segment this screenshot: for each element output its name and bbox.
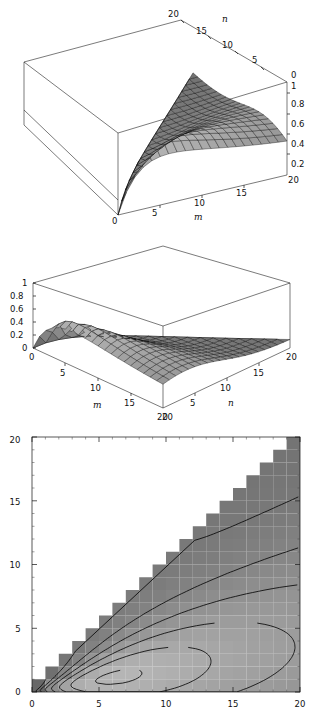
density-cell [260, 463, 273, 476]
xtick-label-15-top: 15 [236, 188, 247, 198]
density-cell [179, 539, 192, 552]
density-cell [153, 565, 166, 578]
ztick-label-06-top: 0.6 [291, 119, 305, 129]
ztick-label-02-mid: 0.2 [10, 330, 24, 340]
ytick-label-0-ct: 0 [15, 687, 20, 697]
density-cell [220, 590, 233, 603]
density-cell [86, 628, 99, 641]
xtick-label-20-ct: 20 [295, 699, 306, 709]
ytick-label-10-mid: 10 [220, 383, 231, 393]
density-cell [246, 565, 259, 578]
surface-mesh-top [118, 73, 287, 215]
density-cell [273, 450, 286, 463]
density-cell [220, 514, 233, 527]
density-cell [273, 616, 286, 629]
xtick-label-0-mid: 0 [29, 352, 34, 362]
density-cell [273, 539, 286, 552]
xtick-label-0-top: 0 [112, 216, 117, 226]
density-cell [220, 565, 233, 578]
density-cell [206, 565, 219, 578]
ytick-label-20-mid: 20 [286, 352, 297, 362]
density-cell [246, 501, 259, 514]
density-cell [220, 539, 233, 552]
mesh-face [126, 177, 134, 190]
density-cell [287, 565, 300, 578]
axis-z-middle: 1 0.8 0.6 0.4 0.2 0 [10, 278, 36, 353]
density-cell [246, 628, 259, 641]
density-cell [206, 514, 219, 527]
density-cell [179, 667, 192, 680]
density-cell [193, 628, 206, 641]
density-cell [233, 603, 246, 616]
density-cell [206, 539, 219, 552]
xtick-label-10-top: 10 [194, 198, 205, 208]
density-cell [246, 603, 259, 616]
density-cell [233, 514, 246, 527]
density-cell [179, 552, 192, 565]
ytick-label-20-top: 20 [168, 9, 179, 19]
density-cell [273, 590, 286, 603]
density-cell [260, 565, 273, 578]
density-cell [273, 667, 286, 680]
density-cell [112, 616, 125, 629]
density-cell [260, 667, 273, 680]
density-cell [193, 679, 206, 692]
surface-middle-svg: 1 0.8 0.6 0.4 0.2 0 0 5 10 15 20 m [0, 238, 312, 430]
density-cell [220, 667, 233, 680]
ytick-label-5-mid: 5 [190, 398, 195, 408]
ztick-label-02-top: 0.2 [291, 159, 305, 169]
density-cell [153, 641, 166, 654]
ztick-label-08-mid: 0.8 [10, 291, 24, 301]
density-cell [233, 526, 246, 539]
density-cell [32, 679, 45, 692]
density-cell [193, 654, 206, 667]
axis-label-n-middle: n [228, 398, 234, 408]
density-cell [193, 552, 206, 565]
ytick-label-20-ct: 20 [10, 435, 21, 445]
density-cell [287, 552, 300, 565]
density-cell [273, 463, 286, 476]
density-cell [273, 641, 286, 654]
density-cell [153, 590, 166, 603]
xtick-label-5-mid: 5 [60, 368, 65, 378]
density-cell [273, 565, 286, 578]
density-cell [112, 667, 125, 680]
density-cell [206, 628, 219, 641]
density-cell [193, 603, 206, 616]
mesh-face [118, 192, 126, 215]
density-cell [287, 654, 300, 667]
density-cell [260, 641, 273, 654]
density-cell [126, 679, 139, 692]
mesh-face [118, 201, 122, 215]
density-cell [112, 654, 125, 667]
density-cell [287, 577, 300, 590]
ztick-label-1-top: 1 [291, 81, 296, 91]
density-cell [287, 667, 300, 680]
corner-label-z0-top: 0 [291, 70, 296, 80]
density-cells [32, 437, 300, 692]
mesh-face [122, 177, 135, 201]
density-cell [233, 577, 246, 590]
density-cell [260, 475, 273, 488]
density-cell [273, 514, 286, 527]
axis-m-top: 0 5 10 15 m [112, 185, 247, 226]
axis-n-top: 20 15 10 5 n [168, 9, 264, 70]
figure-page: 20 15 10 5 n 0 1 0.8 0.6 0.4 0.2 [0, 0, 312, 724]
density-cell [126, 616, 139, 629]
surface-plot-middle: 1 0.8 0.6 0.4 0.2 0 0 5 10 15 20 m [0, 238, 312, 430]
axis-z-top: 0 1 0.8 0.6 0.4 0.2 20 [287, 70, 305, 185]
density-cell [220, 577, 233, 590]
density-cell [233, 628, 246, 641]
density-cell [233, 667, 246, 680]
density-cell [273, 679, 286, 692]
density-cell [166, 654, 179, 667]
density-cell [246, 475, 259, 488]
corner-label-z20-top: 20 [288, 175, 299, 185]
xtick-label-5-top: 5 [152, 208, 157, 218]
density-cell [206, 679, 219, 692]
density-cell [287, 437, 300, 450]
xtick-label-15-mid: 15 [124, 398, 135, 408]
surface-plot-top: 20 15 10 5 n 0 1 0.8 0.6 0.4 0.2 [0, 0, 312, 238]
ytick-label-0-mid: 20 [162, 412, 173, 422]
density-cell [246, 488, 259, 501]
